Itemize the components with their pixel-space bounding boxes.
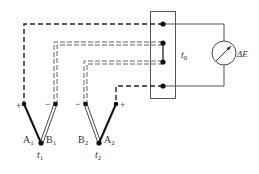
thermocouple-diagram: + − − + A1 B1 B2 A2 t1 t2 t0 ΔE [0,0,259,174]
wire-b2-double-dashed [84,61,163,104]
polarity-a2: + [120,100,125,110]
wire-b1-double-dashed [54,42,163,104]
label-a2: A2 [104,134,115,147]
label-t2: t2 [95,149,102,162]
polarity-a1: + [16,101,21,111]
wire-a1-dashed [24,24,163,104]
label-a1: A1 [23,134,34,147]
label-t1: t1 [37,149,44,162]
label-delta-e: ΔE [236,49,248,59]
galvanometer-icon [212,41,236,65]
label-b1: B1 [46,134,57,147]
polarity-b1: − [45,99,50,109]
label-b2: B2 [78,134,89,147]
label-t0: t0 [181,49,188,62]
polarity-b2: − [75,99,80,109]
